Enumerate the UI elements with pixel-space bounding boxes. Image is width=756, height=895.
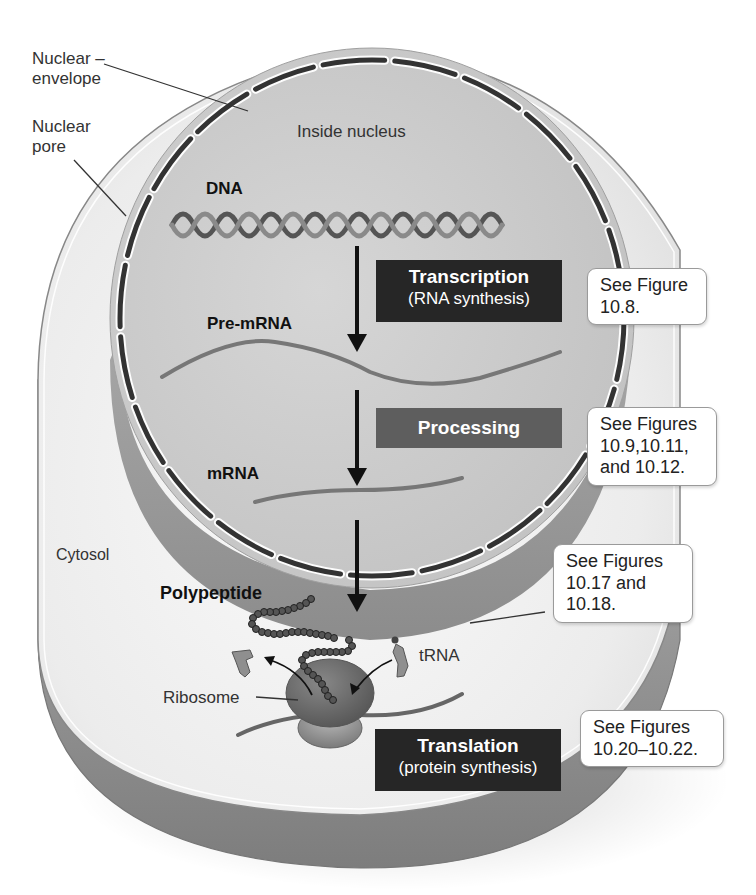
translation-box: Translation (protein synthesis) xyxy=(375,729,561,791)
gene-expression-diagram: Nuclear ‒ envelope Nuclear pore Inside n… xyxy=(0,0,756,895)
inside-nucleus-label: Inside nucleus xyxy=(297,122,406,142)
processing-title: Processing xyxy=(376,417,562,440)
nuclear-pore-label-line1: Nuclear xyxy=(32,117,91,136)
callout-line: See Figure xyxy=(600,275,696,297)
transcription-callout: See Figure 10.8. xyxy=(587,268,707,325)
callout-line: 10.20–10.22. xyxy=(593,739,713,761)
translation-title: Translation xyxy=(375,735,561,758)
callout-line: and 10.12. xyxy=(600,457,706,479)
ribosome-label: Ribosome xyxy=(163,688,240,708)
callout-line: 10.17 and xyxy=(566,573,682,595)
processing-box: Processing xyxy=(376,408,562,448)
mrna-label: mRNA xyxy=(207,464,259,484)
translation-subtitle: (protein synthesis) xyxy=(375,758,561,778)
callout-line: See Figures xyxy=(566,551,682,573)
callout-line: 10.9,10.11, xyxy=(600,436,706,458)
nuclear-pore-label: Nuclear pore xyxy=(32,117,91,156)
callout-line: 10.18. xyxy=(566,594,682,616)
nuclear-pore-label-line2: pore xyxy=(32,137,66,156)
transcription-title: Transcription xyxy=(376,266,562,289)
nuclear-envelope-label-line1: Nuclear xyxy=(32,49,91,68)
transcription-box: Transcription (RNA synthesis) xyxy=(376,260,562,322)
polypeptide-label: Polypeptide xyxy=(160,583,262,604)
trna-callout: See Figures 10.17 and 10.18. xyxy=(553,544,693,623)
callout-line: See Figures xyxy=(600,414,706,436)
callout-line: 10.8. xyxy=(600,297,696,319)
nuclear-envelope-label-line2: envelope xyxy=(32,69,101,88)
transcription-subtitle: (RNA synthesis) xyxy=(376,289,562,309)
trna-label: tRNA xyxy=(419,646,460,666)
translation-callout: See Figures 10.20–10.22. xyxy=(580,710,724,767)
pre-mrna-label: Pre-mRNA xyxy=(207,314,292,334)
processing-callout: See Figures 10.9,10.11, and 10.12. xyxy=(587,407,717,486)
callout-line: See Figures xyxy=(593,717,713,739)
cytosol-label: Cytosol xyxy=(56,546,109,564)
nuclear-envelope-label: Nuclear ‒ envelope xyxy=(32,49,105,88)
dna-label: DNA xyxy=(206,179,243,199)
